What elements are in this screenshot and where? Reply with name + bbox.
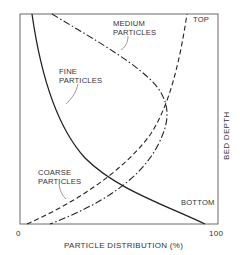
x-axis-min-label: 0 <box>16 229 21 238</box>
bed-depth-diagram: MEDIUM PARTICLES FINE PARTICLES COARSE P… <box>0 0 240 255</box>
coarse-label-line1: COARSE <box>38 168 71 177</box>
x-axis-max-label: 100 <box>209 229 223 238</box>
medium-leader-line <box>121 36 128 50</box>
x-axis-label: PARTICLE DISTRIBUTION (%) <box>64 241 183 250</box>
fine-leader-line <box>66 84 78 104</box>
coarse-particles-curve <box>27 14 187 224</box>
y-axis-label: BED DEPTH <box>222 112 231 161</box>
medium-particles-curve <box>50 14 167 224</box>
bottom-label: BOTTOM <box>181 198 215 207</box>
coarse-leader-line <box>59 184 66 199</box>
medium-label-line2: PARTICLES <box>113 28 156 37</box>
plot-frame <box>20 14 218 224</box>
fine-particles-curve <box>32 14 205 224</box>
fine-label-line2: PARTICLES <box>59 76 102 85</box>
medium-label-line1: MEDIUM <box>113 19 145 28</box>
coarse-label-line2: PARTICLES <box>38 177 81 186</box>
fine-label-line1: FINE <box>59 67 77 76</box>
top-label: TOP <box>193 15 209 24</box>
